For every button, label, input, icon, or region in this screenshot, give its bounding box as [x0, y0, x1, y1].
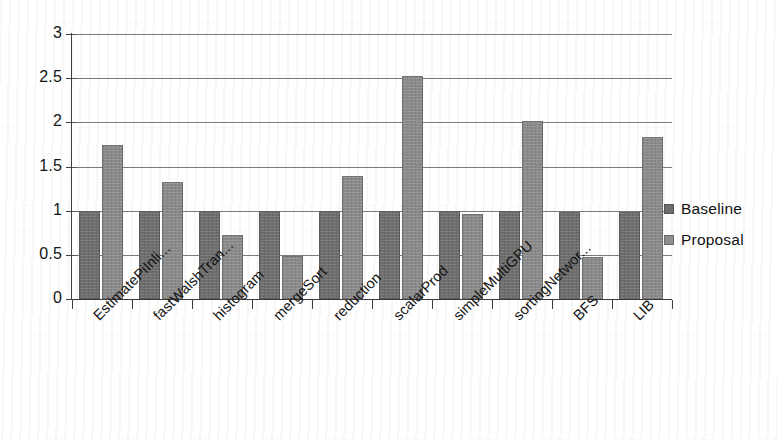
x-tick-mark — [612, 300, 613, 309]
bar-baseline — [379, 211, 400, 299]
x-tick-mark — [312, 300, 313, 309]
x-axis-label: LIB — [630, 296, 657, 323]
x-tick-mark — [672, 300, 673, 309]
x-tick-mark — [432, 300, 433, 309]
bar-group — [312, 34, 372, 299]
x-tick-mark — [372, 300, 373, 309]
bar-proposal — [582, 257, 603, 299]
y-tick-label-1: 1 — [10, 201, 62, 219]
legend-label-baseline: Baseline — [681, 200, 742, 218]
y-tick-label-2.5: 2.5 — [10, 68, 62, 86]
bar-group — [252, 34, 312, 299]
legend-label-proposal: Proposal — [681, 231, 744, 249]
chart-legend: Baseline Proposal — [664, 193, 744, 255]
bar-proposal — [642, 137, 663, 299]
legend-item-proposal: Proposal — [664, 224, 744, 255]
y-tick-label-3: 3 — [10, 24, 62, 42]
legend-swatch-baseline-icon — [664, 204, 674, 214]
bar-proposal — [522, 121, 543, 299]
y-tick-label-0.5: 0.5 — [10, 245, 62, 263]
y-tick-label-2: 2 — [10, 112, 62, 130]
bar-baseline — [439, 211, 460, 299]
x-tick-mark — [192, 300, 193, 309]
x-tick-mark — [552, 300, 553, 309]
bar-group — [612, 34, 672, 299]
bar-baseline — [319, 211, 340, 299]
x-tick-mark — [72, 300, 73, 309]
y-tick-label-1.5: 1.5 — [10, 157, 62, 175]
y-tick-label-0: 0 — [10, 289, 62, 307]
bar-group — [432, 34, 492, 299]
bar-proposal — [102, 145, 123, 299]
x-tick-mark — [492, 300, 493, 309]
bar-baseline — [79, 211, 100, 299]
x-tick-mark — [132, 300, 133, 309]
bar-proposal — [402, 76, 423, 299]
bar-group — [372, 34, 432, 299]
x-tick-mark — [252, 300, 253, 309]
legend-item-baseline: Baseline — [664, 193, 744, 224]
bar-chart-figure: 00.511.522.53 EstimatePiInli...fastWalsh… — [0, 0, 777, 440]
bar-baseline — [259, 211, 280, 299]
bar-baseline — [619, 212, 640, 299]
bar-group — [72, 34, 132, 299]
legend-swatch-proposal-icon — [664, 235, 674, 245]
